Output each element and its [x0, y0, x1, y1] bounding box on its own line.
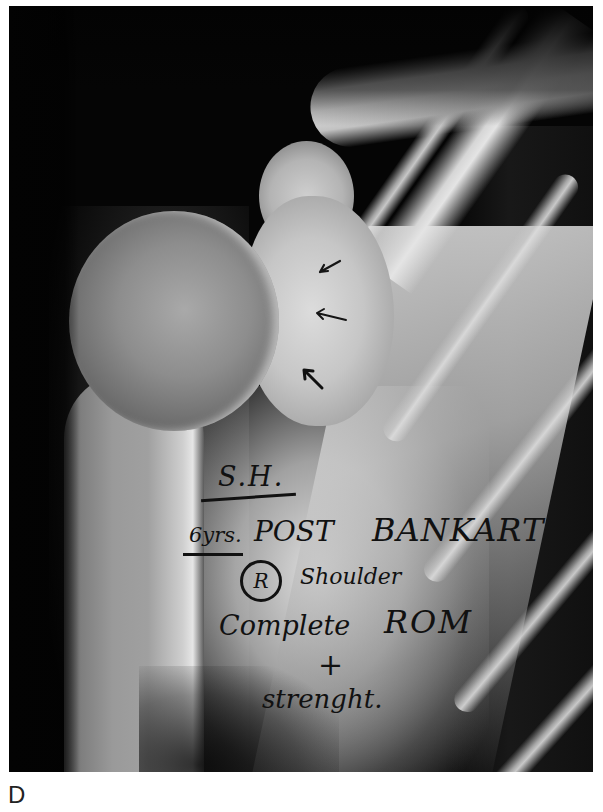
humeral-head — [69, 211, 279, 431]
background-shadow-left — [9, 6, 79, 772]
panel-label: D — [8, 781, 25, 809]
arrow-lower-icon — [298, 363, 328, 393]
annotation-rom: ROM — [384, 606, 473, 638]
humerus-shaft — [64, 376, 204, 772]
annotation-plus: + — [318, 650, 343, 680]
arrow-middle-icon — [312, 307, 350, 327]
annotation-years: 6yrs. — [189, 525, 242, 546]
annotation-side-circled: R — [240, 560, 282, 602]
annotation-underline — [183, 553, 243, 556]
arrow-upper-icon — [314, 258, 344, 278]
annotation-complete: Complete — [219, 612, 350, 639]
rib — [328, 6, 533, 276]
annotation-procedure: BANKART — [372, 514, 544, 546]
annotation-body-part: Shoulder — [300, 566, 401, 588]
annotation-strength: strenght. — [262, 686, 382, 712]
background-shadow-bottom — [139, 666, 339, 772]
rib — [449, 456, 593, 718]
annotation-initials: S.H. — [218, 463, 284, 490]
annotation-post: POST — [254, 518, 334, 546]
coracoid — [259, 141, 354, 251]
annotation-side: R — [253, 569, 268, 593]
